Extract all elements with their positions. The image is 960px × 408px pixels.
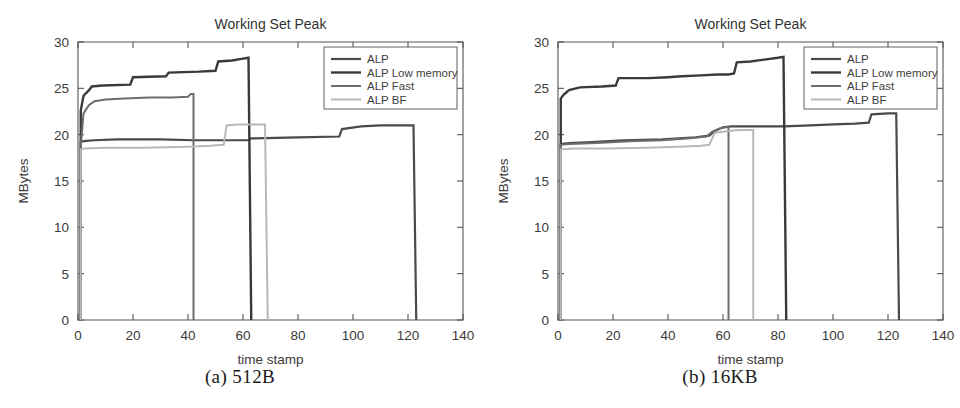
x-tick-label: 0 <box>554 328 562 343</box>
series-line <box>81 124 268 320</box>
x-axis-title: time stamp <box>237 352 303 367</box>
y-tick-label: 25 <box>534 81 549 96</box>
chart-plot: Working Set Peak020406080100120140051015… <box>480 0 960 408</box>
chart-panel: Working Set Peak020406080100120140051015… <box>480 0 960 408</box>
x-tick-label: 20 <box>605 328 620 343</box>
x-tick-label: 40 <box>660 328 675 343</box>
y-tick-label: 20 <box>54 128 69 143</box>
y-tick-label: 0 <box>61 313 69 328</box>
x-tick-label: 40 <box>180 328 195 343</box>
legend-label: ALP BF <box>847 94 886 106</box>
series-line <box>81 94 194 320</box>
y-tick-label: 20 <box>534 128 549 143</box>
chart-title: Working Set Peak <box>215 16 328 32</box>
legend-label: ALP Low memory <box>367 67 458 79</box>
y-tick-label: 5 <box>61 267 69 282</box>
chart-panel: Working Set Peak020406080100120140051015… <box>0 0 480 408</box>
legend-label: ALP Low memory <box>847 67 938 79</box>
x-tick-label: 60 <box>715 328 730 343</box>
panel-caption: (b) 16KB <box>480 366 960 388</box>
x-tick-label: 120 <box>397 328 420 343</box>
y-axis-title: MBytes <box>496 158 511 203</box>
y-tick-label: 25 <box>54 81 69 96</box>
x-tick-label: 80 <box>290 328 305 343</box>
x-tick-label: 60 <box>235 328 250 343</box>
x-tick-label: 140 <box>452 328 475 343</box>
y-tick-label: 15 <box>54 174 69 189</box>
series-line <box>561 113 899 320</box>
x-axis-title: time stamp <box>717 352 783 367</box>
chart-plot: Working Set Peak020406080100120140051015… <box>0 0 480 408</box>
x-tick-label: 100 <box>342 328 365 343</box>
legend-label: ALP <box>367 53 389 65</box>
x-tick-label: 80 <box>770 328 785 343</box>
x-tick-label: 100 <box>822 328 845 343</box>
y-tick-label: 10 <box>534 220 549 235</box>
y-tick-label: 5 <box>541 267 549 282</box>
y-tick-label: 0 <box>541 313 549 328</box>
x-tick-label: 140 <box>932 328 955 343</box>
x-tick-label: 0 <box>74 328 82 343</box>
x-tick-label: 20 <box>125 328 140 343</box>
series-line <box>561 127 729 320</box>
y-tick-label: 30 <box>54 35 69 50</box>
panel-caption: (a) 512B <box>0 366 480 388</box>
x-tick-label: 120 <box>877 328 900 343</box>
y-tick-label: 30 <box>534 35 549 50</box>
legend-label: ALP Fast <box>847 80 895 92</box>
chart-title: Working Set Peak <box>695 16 808 32</box>
y-axis-title: MBytes <box>16 158 31 203</box>
legend-label: ALP <box>847 53 869 65</box>
y-tick-label: 15 <box>534 174 549 189</box>
legend-label: ALP Fast <box>367 80 415 92</box>
series-line <box>561 130 754 320</box>
y-tick-label: 10 <box>54 220 69 235</box>
legend-label: ALP BF <box>367 94 406 106</box>
figure-container: Working Set Peak020406080100120140051015… <box>0 0 960 408</box>
